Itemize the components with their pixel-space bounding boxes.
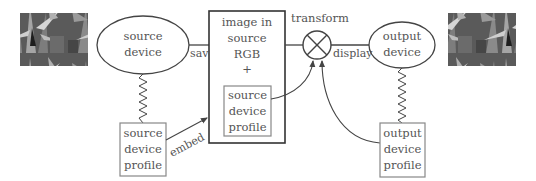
embed-label: embed [167,131,206,160]
svg-text:RGB: RGB [234,47,260,61]
transform-label: transform [291,11,349,25]
output-zigzag-link [398,68,406,123]
svg-text:device: device [124,142,162,156]
source-profile-node: source device profile [120,123,166,176]
svg-text:source: source [228,31,267,45]
svg-text:source: source [124,29,163,43]
source-device-node: source device [97,16,189,74]
svg-text:profile: profile [384,158,422,172]
source-zigzag-link [139,74,147,123]
embedded-profile-node: source device profile [224,86,271,136]
svg-text:device: device [384,142,422,156]
svg-text:output: output [383,126,422,140]
svg-text:source: source [124,126,163,140]
display-label: display [333,47,373,60]
svg-text:device: device [229,104,267,118]
output-profile-to-transform-curve [322,61,380,143]
svg-text:profile: profile [124,158,162,172]
svg-text:device: device [383,45,421,59]
svg-text:output: output [383,29,422,43]
output-profile-node: output device profile [380,123,425,177]
output-photo [448,13,516,66]
svg-text:+: + [242,62,252,76]
svg-text:source: source [228,88,267,102]
svg-text:image in: image in [222,15,273,29]
color-management-diagram: source device save source device profile… [0,0,536,181]
output-device-node: output device [369,22,435,68]
svg-text:device: device [124,45,162,59]
input-photo [20,13,88,66]
svg-text:profile: profile [229,120,267,134]
